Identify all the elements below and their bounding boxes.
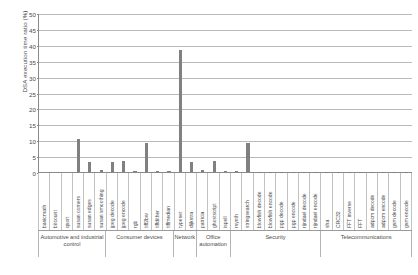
category-tick: adpcm decode — [366, 173, 377, 230]
bar-slot — [220, 14, 231, 172]
bar-series — [39, 14, 412, 172]
bar-slot — [231, 14, 242, 172]
y-tick-label: 45 — [29, 26, 36, 33]
group-label: Office automation — [197, 234, 229, 248]
category-label: rijndael decode — [301, 193, 307, 228]
bar-slot — [310, 14, 321, 172]
category-label: dijkstra — [188, 212, 194, 228]
group-segment: Automotive and industrial control — [38, 231, 106, 257]
group-label: Consumer devices — [107, 234, 171, 241]
bar-slot — [129, 14, 140, 172]
bar-slot — [333, 14, 344, 172]
category-tick: FFT — [354, 173, 365, 230]
category-label: susan edges — [87, 199, 93, 228]
category-label: blowfish encode — [267, 191, 273, 228]
category-tick: stringsearch — [241, 173, 252, 230]
category-label: CRC32 — [335, 211, 341, 228]
bar-slot — [276, 14, 287, 172]
bar-slot — [175, 14, 186, 172]
category-label: patricia — [200, 212, 206, 228]
bar-slot — [197, 14, 208, 172]
bar-slot — [321, 14, 332, 172]
category-label: qsort — [64, 217, 70, 228]
bar — [201, 170, 204, 172]
category-label: pgp encode — [290, 201, 296, 228]
y-tick-label: 25 — [29, 90, 36, 97]
group-axis: Automotive and industrial controlConsume… — [38, 231, 412, 257]
bar-slot — [95, 14, 106, 172]
group-label: Automotive and industrial control — [40, 234, 103, 248]
bar-slot — [208, 14, 219, 172]
category-label: stringsearch — [245, 200, 251, 228]
category-label: ispell — [222, 216, 228, 228]
bar-slot — [378, 14, 389, 172]
category-tick: tiff2bw — [140, 173, 151, 230]
category-axis: basicmathbitcountqsortsusan cornerssusan… — [38, 173, 412, 231]
bar-slot — [401, 14, 412, 172]
category-tick: tiffmedian — [162, 173, 173, 230]
category-tick: dijkstra — [185, 173, 196, 230]
category-label: rgb — [132, 221, 138, 228]
bar — [235, 171, 238, 172]
category-label: typeset — [177, 212, 183, 228]
bar-slot — [73, 14, 84, 172]
category-tick: rsynth — [230, 173, 241, 230]
bar-slot — [254, 14, 265, 172]
category-tick: susan corners — [72, 173, 83, 230]
bar-slot — [163, 14, 174, 172]
category-label: blowfish decode — [256, 191, 262, 228]
bar — [156, 171, 159, 172]
bar-slot — [107, 14, 118, 172]
bar — [100, 170, 103, 172]
category-label: gsm decode — [392, 200, 398, 228]
category-tick: susan smoothing — [94, 173, 105, 230]
bar — [111, 162, 114, 172]
bar-slot — [389, 14, 400, 172]
y-tick-label: 20 — [29, 106, 36, 113]
y-axis-title: DSA execution time ratio (%) — [21, 0, 28, 122]
category-label: FFT inverse — [347, 201, 353, 228]
plot-area: 05101520253035404550 — [38, 14, 412, 173]
category-tick: rgb — [128, 173, 139, 230]
bar-slot — [62, 14, 73, 172]
bar-slot — [50, 14, 61, 172]
category-tick: ghostscript — [207, 173, 218, 230]
category-tick: patricia — [196, 173, 207, 230]
bar — [145, 143, 148, 172]
bar-slot — [186, 14, 197, 172]
bar — [122, 161, 125, 172]
bar-slot — [265, 14, 276, 172]
bar — [179, 50, 182, 172]
y-tick-label: 50 — [29, 11, 36, 18]
category-label: adpcm encode — [380, 195, 386, 228]
bar — [190, 162, 193, 172]
category-label: adpcm decode — [369, 195, 375, 228]
bar — [77, 139, 80, 172]
bar-slot — [355, 14, 366, 172]
category-label: pgp decode — [279, 201, 285, 228]
category-tick: sha — [320, 173, 331, 230]
bar-slot — [288, 14, 299, 172]
y-tick-label: 30 — [29, 74, 36, 81]
group-segment: Consumer devices — [106, 231, 174, 257]
category-tick: qsort — [61, 173, 72, 230]
category-tick: typeset — [174, 173, 185, 230]
category-tick: pgp decode — [275, 173, 286, 230]
group-label: Telecommunications — [323, 234, 409, 241]
category-label: jpeg decode — [109, 200, 115, 228]
y-tick-label: 35 — [29, 58, 36, 65]
group-label: Security — [232, 234, 318, 241]
category-tick: tiffdither — [151, 173, 162, 230]
category-label: tiff2bw — [143, 213, 149, 228]
category-tick: blowfish decode — [253, 173, 264, 230]
bar-slot — [152, 14, 163, 172]
category-label: tiffdither — [155, 210, 161, 228]
bar-slot — [118, 14, 129, 172]
category-label: susan corners — [75, 196, 81, 228]
bar-slot — [141, 14, 152, 172]
category-label: rijndael encode — [313, 193, 319, 228]
bar-slot — [84, 14, 95, 172]
bar-slot — [299, 14, 310, 172]
category-tick: susan edges — [83, 173, 94, 230]
category-tick: gsm decode — [388, 173, 399, 230]
